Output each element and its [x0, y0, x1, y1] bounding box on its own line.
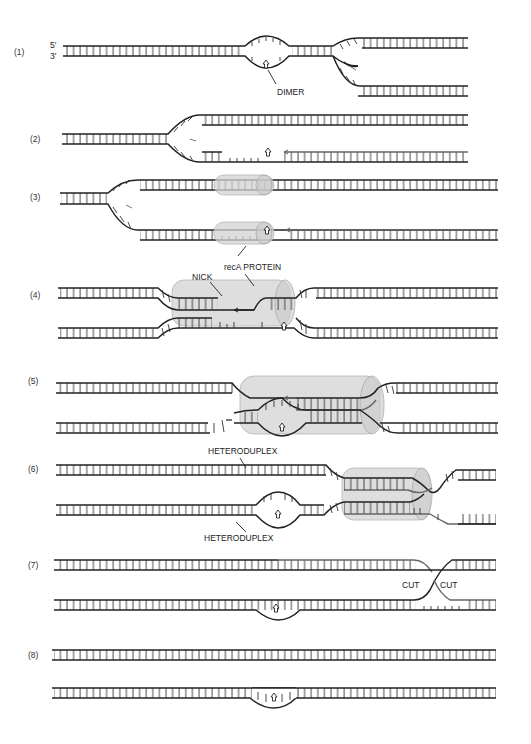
heteroduplex-bottom-label: HETERODUPLEX [204, 533, 274, 543]
cut-right-label: CUT [440, 580, 457, 590]
step-label-1: (1) [14, 47, 25, 57]
reca-protein-label: recA PROTEIN [224, 262, 281, 272]
step-8: (8) [28, 650, 496, 708]
step-label-2: (2) [30, 134, 41, 144]
dimer-label: DIMER [277, 87, 304, 97]
step-3: (3) recA PROTEIN [30, 175, 498, 272]
step-label-8: (8) [28, 650, 39, 660]
dimer-icon [263, 60, 269, 68]
cut-left-label: CUT [402, 580, 419, 590]
five-prime-label: 5′ [50, 40, 57, 50]
step-2: (2) [30, 115, 468, 162]
dimer-icon [265, 148, 271, 156]
step-label-7: (7) [28, 560, 39, 570]
step-label-6: (6) [28, 464, 39, 474]
three-prime-label: 3′ [50, 51, 57, 61]
step-6: (6) HETERODUPLEX HETERODUPLEX [28, 446, 496, 543]
step-7: (7) CUT CUT [28, 560, 496, 620]
step-label-3: (3) [30, 192, 41, 202]
step-label-5: (5) [28, 376, 39, 386]
step-label-4: (4) [30, 290, 41, 300]
dimer-icon [275, 510, 281, 518]
recombination-repair-diagram: (1) 5′ 3′ DIMER (2) [0, 0, 531, 744]
nick-label: NICK [192, 272, 213, 282]
step-5: (5) [28, 376, 498, 436]
heteroduplex-top-label: HETERODUPLEX [208, 446, 278, 456]
step-1: (1) 5′ 3′ DIMER [14, 36, 468, 97]
step-4: (4) NICK [30, 272, 498, 338]
